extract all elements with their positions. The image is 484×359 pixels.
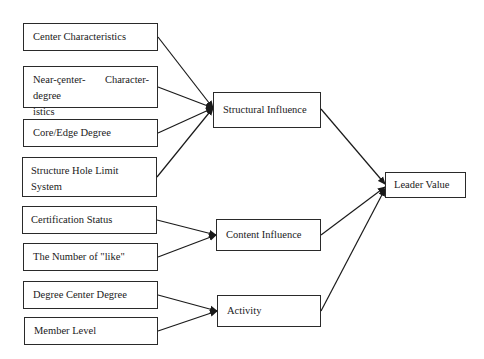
node-structure-hole-limit-system: Structure Hole Limit System	[22, 157, 157, 197]
node-label-part: Near-çenter-degree	[33, 72, 105, 104]
node-label: Core/Edge Degree	[33, 125, 111, 141]
edge-center-to-structural	[158, 37, 213, 108]
node-label: Activity	[227, 303, 261, 319]
node-label: Content Influence	[226, 227, 302, 243]
edge-content-to-leader	[321, 187, 385, 235]
node-content-influence: Content Influence	[216, 219, 321, 251]
edge-memberlevel-to-activity	[158, 311, 217, 331]
node-label-part: Character-	[105, 72, 149, 104]
node-label: Certification Status	[31, 212, 112, 228]
node-near-center-degree-characteristics: Near-çenter-degree Character- istics	[23, 66, 158, 108]
node-center-characteristics: Center Characteristics	[23, 23, 158, 51]
node-degree-center-degree: Degree Center Degree	[23, 281, 158, 309]
edge-nearcenter-to-structural	[158, 87, 213, 108]
node-member-level: Member Level	[24, 317, 158, 345]
node-label: Structural Influence	[223, 102, 307, 118]
node-label: Degree Center Degree	[33, 287, 127, 303]
diagram-canvas: Center Characteristics Near-çenter-degre…	[0, 0, 484, 359]
node-core-edge-degree: Core/Edge Degree	[23, 119, 158, 147]
node-label-line1: Near-çenter-degree Character-	[33, 72, 149, 104]
edge-certification-to-content	[157, 220, 216, 235]
node-label: Leader Value	[394, 177, 449, 193]
edge-structural-to-leader	[321, 109, 385, 184]
edge-coreedge-to-structural	[158, 108, 213, 133]
node-structural-influence: Structural Influence	[213, 92, 321, 128]
node-label: Member Level	[34, 323, 96, 339]
edge-structurehole-to-structural	[157, 108, 213, 177]
node-label: The Number of "like"	[33, 249, 125, 265]
node-certification-status: Certification Status	[22, 206, 157, 234]
node-number-of-like: The Number of "like"	[23, 243, 158, 271]
node-label: Structure Hole Limit System	[31, 165, 118, 192]
edge-degreecenter-to-activity	[158, 295, 217, 311]
node-label-line2: istics	[33, 104, 149, 120]
edge-like-to-content	[158, 235, 216, 257]
node-label: Center Characteristics	[33, 29, 126, 45]
edge-activity-to-leader	[321, 189, 385, 311]
node-activity: Activity	[217, 295, 321, 327]
node-leader-value: Leader Value	[385, 172, 466, 198]
